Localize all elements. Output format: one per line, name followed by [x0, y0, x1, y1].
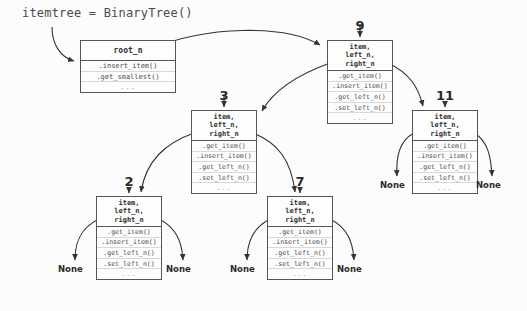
node-method-ellipsis: ...: [328, 113, 392, 123]
node-method: .insert_item(): [268, 238, 332, 249]
node-header: item, left_n, right_n: [328, 41, 392, 71]
node-box-2: item, left_n, right_n .get_item() .inser…: [96, 196, 162, 280]
node-header-line-left: left_n,: [430, 121, 460, 129]
node-method: .set_left_n(): [268, 259, 332, 270]
node-header-line-item: item,: [349, 43, 370, 51]
node-label-7: 7: [267, 174, 333, 189]
none-label-node11-right: None: [476, 180, 501, 190]
node-method: .get_left_n(): [328, 92, 392, 103]
node-header-line-item: item,: [434, 113, 455, 121]
edge-node9-left-to-node3: [262, 63, 330, 111]
node-header: item, left_n, right_n: [97, 197, 161, 227]
tree-method: .insert_item(): [81, 61, 175, 72]
node-method: .get_left_n(): [97, 248, 161, 259]
edge-itemtree-to-treebox: [52, 27, 74, 61]
node-method: .set_left_n(): [413, 173, 477, 184]
node-header-line-right: right_n: [430, 130, 460, 138]
node-header-line-item: item,: [213, 113, 234, 121]
node-header-line-left: left_n,: [345, 51, 375, 59]
tree-object-box: root_n .insert_item() .get_smallest() ..…: [80, 40, 176, 93]
node-box-11: item, left_n, right_n .get_item() .inser…: [412, 110, 478, 194]
node-box-3: item, left_n, right_n .get_item() .inser…: [191, 110, 257, 194]
node-header-line-right: right_n: [114, 216, 144, 224]
node-header-line-right: right_n: [345, 60, 375, 68]
node-header-line-right: right_n: [285, 216, 315, 224]
node-methods: .get_item() .insert_item() .get_left_n()…: [192, 141, 256, 193]
node-header-line-item: item,: [118, 199, 139, 207]
node-label-3: 3: [191, 88, 257, 103]
node-method-ellipsis: ...: [192, 183, 256, 193]
none-label-node7-left: None: [230, 264, 255, 274]
none-label-node11-left: None: [380, 180, 405, 190]
node-header-line-right: right_n: [209, 130, 239, 138]
node-header: item, left_n, right_n: [192, 111, 256, 141]
edge-node7-right-to-none: [330, 219, 354, 260]
node-method: .set_left_n(): [328, 103, 392, 114]
node-method: .get_item(): [413, 141, 477, 152]
node-method: .insert_item(): [328, 82, 392, 93]
node-methods: .get_item() .insert_item() .get_left_n()…: [97, 227, 161, 279]
edge-node2-right-to-none: [159, 219, 183, 260]
node-method: .get_left_n(): [413, 162, 477, 173]
node-method: .get_left_n(): [192, 162, 256, 173]
none-label-node7-right: None: [337, 264, 362, 274]
node-method: .get_item(): [97, 227, 161, 238]
node-label-9: 9: [327, 18, 393, 33]
node-method: .get_item(): [328, 71, 392, 82]
tree-method: .get_smallest(): [81, 72, 175, 83]
node-method: .insert_item(): [97, 238, 161, 249]
node-method-ellipsis: ...: [97, 269, 161, 279]
node-label-2: 2: [96, 174, 162, 189]
none-label-node2-right: None: [166, 264, 191, 274]
node-header: item, left_n, right_n: [413, 111, 477, 141]
node-method-ellipsis: ...: [268, 269, 332, 279]
node-methods: .get_item() .insert_item() .get_left_n()…: [268, 227, 332, 279]
node-method: .insert_item(): [192, 152, 256, 163]
node-method: .insert_item(): [413, 152, 477, 163]
node-methods: .get_item() .insert_item() .get_left_n()…: [328, 71, 392, 123]
node-header-line-left: left_n,: [114, 207, 144, 215]
tree-object-header-label: root_n: [114, 46, 143, 55]
node-method: .get_left_n(): [268, 248, 332, 259]
none-label-node2-left: None: [58, 264, 83, 274]
node-label-11: 11: [412, 88, 478, 103]
node-methods: .get_item() .insert_item() .get_left_n()…: [413, 141, 477, 193]
node-method: .get_item(): [268, 227, 332, 238]
edge-rootn-to-node9: [151, 30, 320, 49]
node-method: .set_left_n(): [192, 173, 256, 184]
node-box-7: item, left_n, right_n .get_item() .inser…: [267, 196, 333, 280]
tree-object-methods: .insert_item() .get_smallest() ...: [81, 61, 175, 92]
node-header-line-item: item,: [289, 199, 310, 207]
node-method: .set_left_n(): [97, 259, 161, 270]
node-header-line-left: left_n,: [209, 121, 239, 129]
node-header-line-left: left_n,: [285, 207, 315, 215]
tree-object-header: root_n: [81, 41, 175, 61]
node-box-9: item, left_n, right_n .get_item() .inser…: [327, 40, 393, 124]
node-method: .get_item(): [192, 141, 256, 152]
node-header: item, left_n, right_n: [268, 197, 332, 227]
node-method-ellipsis: ...: [413, 183, 477, 193]
diagram-canvas: itemtree = BinaryTree() root_n .insert_i…: [0, 0, 527, 311]
tree-method-ellipsis: ...: [81, 82, 175, 92]
diagram-title: itemtree = BinaryTree(): [22, 6, 193, 20]
